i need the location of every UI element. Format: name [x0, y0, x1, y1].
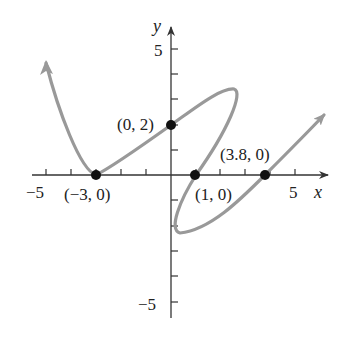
- point-1-0: [190, 170, 200, 180]
- x-tick-label-5: 5: [289, 183, 298, 202]
- x-tick-label-neg5: −5: [26, 183, 44, 202]
- y-tick-label-5: 5: [154, 41, 163, 60]
- y-tick-label-neg5: −5: [138, 295, 156, 314]
- graph: −5 5 5 −5 x y (0, 2) (−3, 0) (1, 0) (3.8…: [0, 0, 347, 346]
- point-0-2: [166, 120, 176, 130]
- point-label-0-2: (0, 2): [117, 115, 154, 134]
- point-3.8-0: [260, 170, 270, 180]
- x-axis-label: x: [313, 182, 322, 202]
- y-axis-label: y: [151, 16, 161, 36]
- relation-curve: [46, 63, 324, 233]
- point-label-1-0: (1, 0): [195, 185, 232, 204]
- point-neg3-0: [91, 170, 101, 180]
- point-label-3.8-0: (3.8, 0): [220, 145, 270, 164]
- arrow-head-left-icon: [40, 60, 53, 75]
- point-label-neg3-0: (−3, 0): [64, 185, 110, 204]
